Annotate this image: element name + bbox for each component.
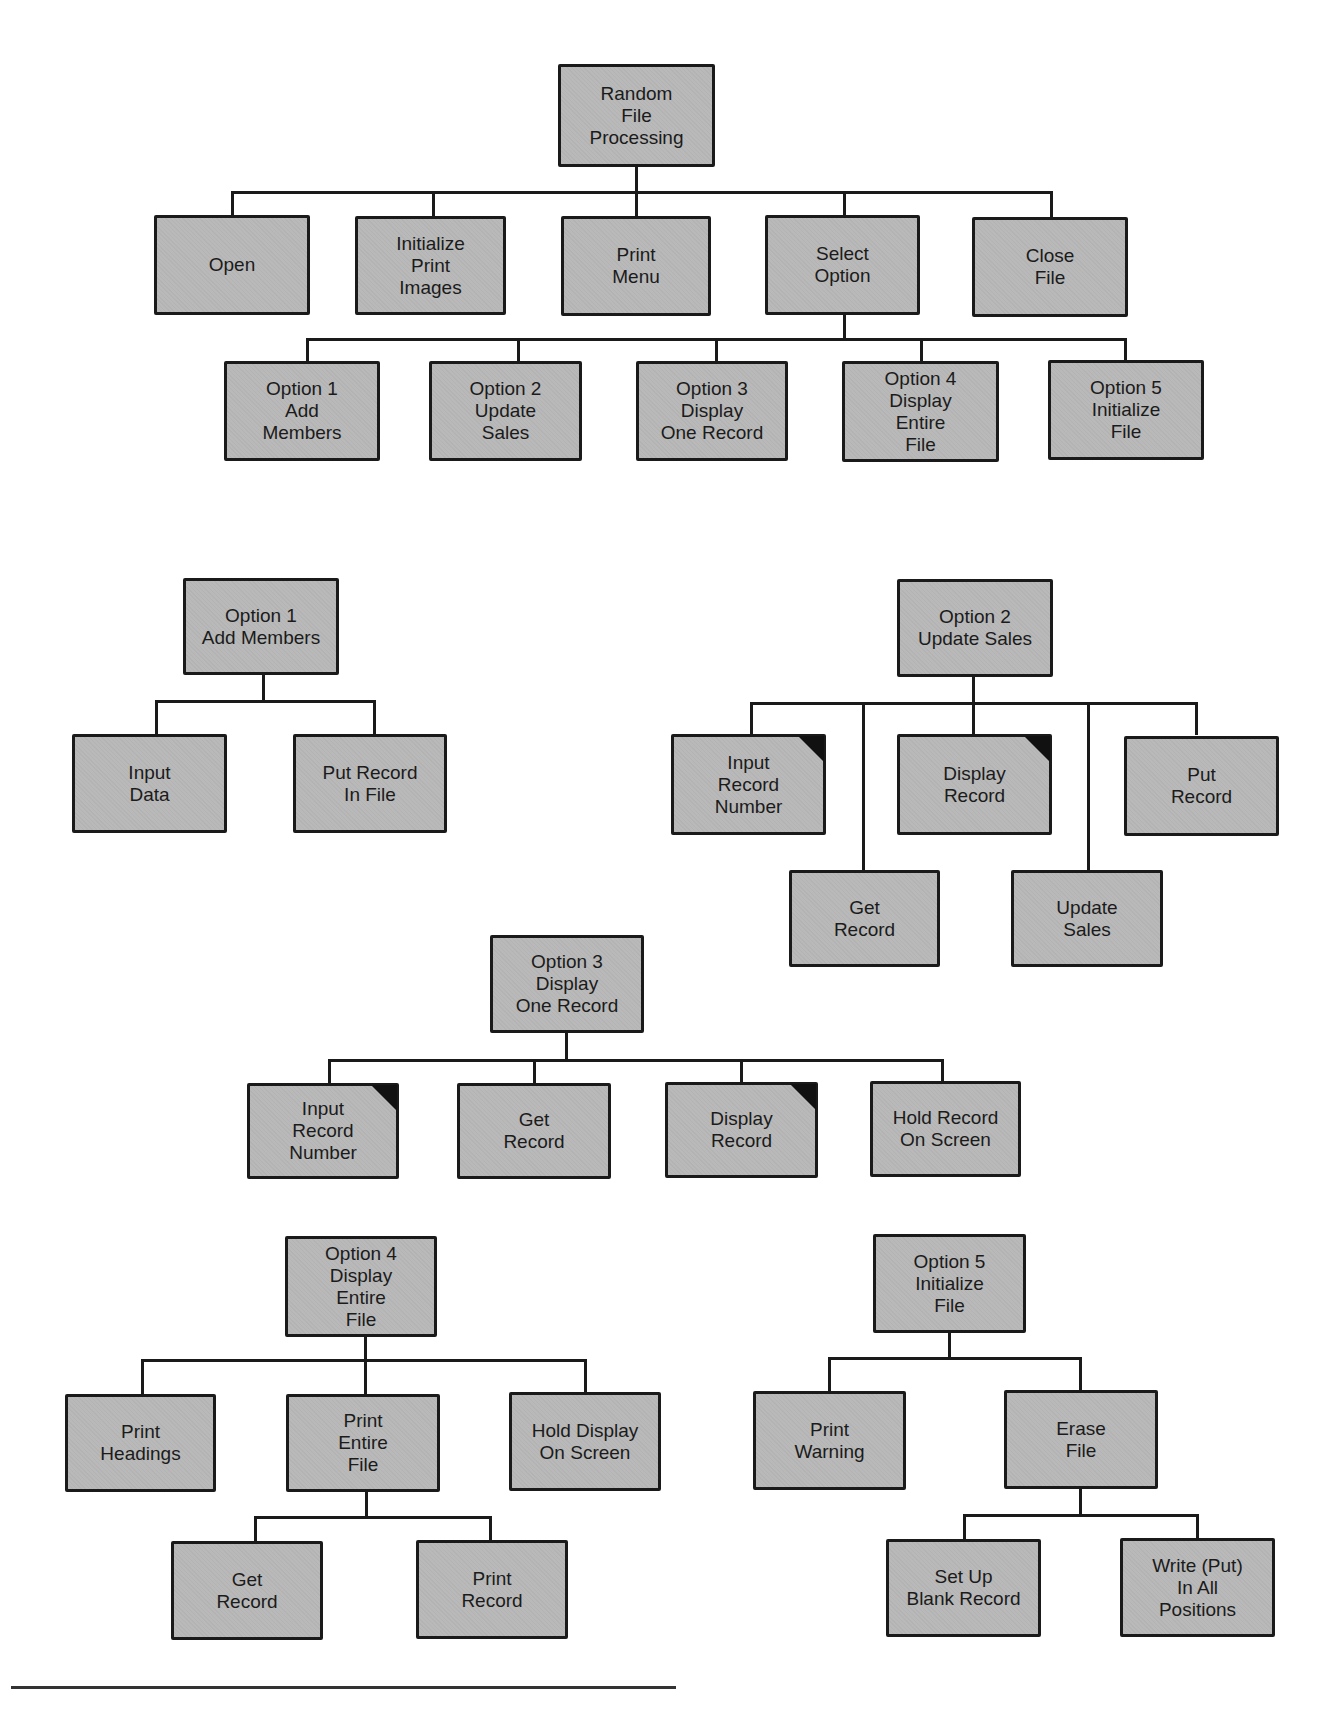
node-input-record-number: Input Record Number (671, 734, 826, 835)
node-option3: Option 3 Display One Record (636, 361, 788, 461)
node-option4-root: Option 4 Display Entire File (285, 1236, 437, 1337)
node-random-file-processing: Random File Processing (558, 64, 715, 167)
connector (1079, 1357, 1082, 1390)
connector (254, 1516, 492, 1519)
node-option2-root: Option 2 Update Sales (897, 579, 1053, 677)
footer-rule (11, 1686, 676, 1689)
connector (565, 1033, 568, 1061)
node-put-record: Put Record (1124, 736, 1279, 836)
connector (155, 700, 158, 734)
connector (1050, 191, 1053, 217)
connector (328, 1059, 331, 1083)
node-display-record: Display Record (897, 734, 1052, 835)
connector (254, 1516, 257, 1541)
node-select-option: Select Option (765, 215, 920, 315)
connector (306, 338, 309, 361)
node-option5-root: Option 5 Initialize File (873, 1234, 1026, 1333)
node-print-headings: Print Headings (65, 1394, 216, 1492)
node-erase-file: Erase File (1004, 1390, 1158, 1489)
connector (948, 1333, 951, 1358)
connector (740, 1059, 743, 1083)
connector (1124, 338, 1127, 361)
io-marker-icon (1024, 736, 1050, 762)
connector (517, 338, 520, 361)
node-input-data: Input Data (72, 734, 227, 833)
node-option1: Option 1 Add Members (224, 361, 380, 461)
connector (941, 1059, 944, 1083)
connector (828, 1357, 831, 1391)
node-print-menu: Print Menu (561, 216, 711, 316)
connector (1196, 1514, 1199, 1539)
connector (1079, 1489, 1082, 1516)
connector (963, 1514, 1199, 1517)
connector (262, 675, 265, 702)
connector (364, 1337, 367, 1361)
io-marker-icon (790, 1084, 816, 1110)
node-hold-display-on-screen: Hold Display On Screen (509, 1392, 661, 1491)
node-get-record: Get Record (789, 870, 940, 967)
connector (715, 338, 718, 361)
connector (972, 702, 975, 734)
connector (1087, 702, 1090, 870)
connector (828, 1357, 1082, 1360)
node-option4: Option 4 Display Entire File (842, 361, 999, 462)
node-hold-record-on-screen: Hold Record On Screen (870, 1081, 1021, 1177)
connector (972, 677, 975, 703)
node-set-up-blank-record: Set Up Blank Record (886, 1539, 1041, 1637)
connector (750, 702, 753, 734)
connector (373, 700, 376, 734)
connector (365, 1492, 368, 1518)
connector (155, 700, 376, 703)
node-option5: Option 5 Initialize File (1048, 360, 1204, 460)
connector (533, 1059, 536, 1083)
node-print-record: Print Record (416, 1540, 568, 1639)
connector (843, 315, 846, 340)
node-write-put-in-all-positions: Write (Put) In All Positions (1120, 1538, 1275, 1637)
connector (141, 1359, 144, 1394)
connector (1195, 702, 1198, 735)
connector (489, 1516, 492, 1540)
node-close-file: Close File (972, 217, 1128, 317)
connector (584, 1359, 587, 1393)
connector (364, 1359, 367, 1394)
connector (920, 338, 923, 361)
node-display-record: Display Record (665, 1082, 818, 1178)
connector (963, 1514, 966, 1539)
node-update-sales: Update Sales (1011, 870, 1163, 967)
node-initialize-print-images: Initialize Print Images (355, 216, 506, 315)
io-marker-icon (371, 1085, 397, 1111)
connector (862, 702, 865, 870)
node-print-entire-file: Print Entire File (286, 1394, 440, 1492)
connector (231, 191, 1053, 194)
node-option1-root: Option 1 Add Members (183, 578, 339, 675)
connector (635, 167, 638, 193)
node-get-record: Get Record (457, 1083, 611, 1179)
node-put-record-in-file: Put Record In File (293, 734, 447, 833)
node-print-warning: Print Warning (753, 1391, 906, 1490)
io-marker-icon (798, 736, 824, 762)
node-get-record: Get Record (171, 1541, 323, 1640)
connector (328, 1059, 943, 1062)
node-option3-root: Option 3 Display One Record (490, 935, 644, 1033)
connector (635, 191, 638, 216)
node-option2: Option 2 Update Sales (429, 361, 582, 461)
connector (231, 191, 234, 215)
connector (843, 191, 846, 215)
node-open: Open (154, 215, 310, 315)
node-input-record-number: Input Record Number (247, 1083, 399, 1179)
connector (432, 191, 435, 216)
